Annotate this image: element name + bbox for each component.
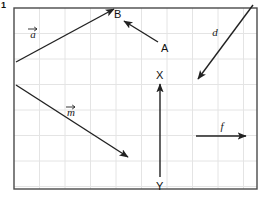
vector-diagram-figure: 1 admf BAXY — [0, 0, 271, 201]
point-label-A: A — [161, 42, 169, 54]
point-label-X: X — [156, 69, 164, 81]
grid-panel — [14, 8, 257, 189]
point-label-B: B — [114, 8, 121, 20]
vector-label-d: d — [212, 26, 218, 38]
panel-background — [14, 8, 257, 189]
figure-canvas: admf BAXY — [0, 0, 271, 201]
point-label-Y: Y — [156, 180, 164, 192]
